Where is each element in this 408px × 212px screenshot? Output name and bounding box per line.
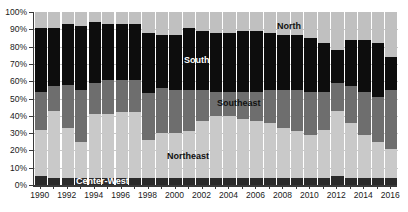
bar-segment-south [89, 22, 101, 83]
bar-column[interactable] [331, 12, 343, 185]
x-tick-mark [215, 185, 216, 189]
bar-segment-north [385, 12, 397, 57]
y-tick-label: 20% [10, 146, 27, 154]
bar-segment-northeast [237, 119, 249, 178]
bar-segment-north [264, 12, 276, 33]
stacked-bar-chart: 0%10%20%30%40%50%60%70%80%90%100% North … [0, 0, 408, 212]
x-tick-mark [255, 185, 256, 189]
bar-segment-south [62, 24, 74, 85]
bar-column[interactable] [277, 12, 289, 185]
bar-segment-northeast [318, 130, 330, 178]
bar-segment-north [237, 12, 249, 31]
bar-segment-southeast [48, 86, 60, 110]
x-tick-mark [40, 185, 41, 189]
bar-segment-center-west [183, 178, 195, 185]
bar-segment-south [385, 57, 397, 90]
bar-segment-center-west [277, 178, 289, 185]
bar-segment-northeast [196, 121, 208, 178]
bar-segment-south [116, 24, 128, 79]
bar-segment-southeast [304, 92, 316, 135]
bar-segment-south [264, 33, 276, 90]
bar-segment-south [48, 28, 60, 87]
bar-column[interactable] [75, 12, 87, 185]
bar-segment-south [277, 35, 289, 90]
bar-segment-southeast [142, 93, 154, 140]
bar-segment-center-west [48, 178, 60, 185]
bar-segment-center-west [250, 178, 262, 185]
y-tick-label: 40% [10, 112, 27, 120]
bar-segment-northeast [372, 142, 384, 178]
bar-segment-northeast [102, 114, 114, 178]
y-tick-label: 70% [10, 60, 27, 68]
bar-column[interactable] [358, 12, 370, 185]
bar-segment-northeast [142, 140, 154, 178]
bar-column[interactable] [318, 12, 330, 185]
bar-segment-north [304, 12, 316, 38]
bar-segment-southeast [196, 90, 208, 121]
bar-column[interactable] [142, 12, 154, 185]
bar-segment-center-west [223, 178, 235, 185]
bar-segment-center-west [291, 178, 303, 185]
bar-segment-center-west [156, 178, 168, 185]
x-tick-mark [377, 185, 378, 189]
plot-area: North South Southeast Northeast Center-W… [33, 12, 398, 185]
bar-column[interactable] [264, 12, 276, 185]
bar-segment-north [75, 12, 87, 26]
bar-column[interactable] [89, 12, 101, 185]
x-tick-mark [228, 185, 229, 189]
bar-segment-center-west [358, 178, 370, 185]
x-tick-label: 2010 [300, 191, 319, 200]
x-tick-label: 1998 [138, 191, 157, 200]
bar-column[interactable] [291, 12, 303, 185]
bar-segment-northeast [210, 116, 222, 178]
bar-segment-northeast [89, 114, 101, 178]
x-tick-label: 2002 [192, 191, 211, 200]
bar-segment-south [75, 26, 87, 90]
bar-column[interactable] [345, 12, 357, 185]
bar-segment-center-west [142, 178, 154, 185]
bar-column[interactable] [48, 12, 60, 185]
bar-segment-center-west [304, 178, 316, 185]
bar-column[interactable] [372, 12, 384, 185]
x-tick-mark [390, 185, 391, 189]
bar-segment-north [129, 12, 141, 24]
bar-segment-north [89, 12, 101, 22]
bar-column[interactable] [116, 12, 128, 185]
bar-column[interactable] [102, 12, 114, 185]
bar-segment-south [291, 35, 303, 90]
bar-segment-south [345, 40, 357, 87]
x-tick-mark [323, 185, 324, 189]
bar-segment-north [35, 12, 47, 28]
x-tick-mark [175, 185, 176, 189]
y-tick-label: 0% [15, 181, 27, 189]
bar-column[interactable] [304, 12, 316, 185]
x-tick-mark [202, 185, 203, 189]
bar-segment-south [331, 50, 343, 83]
bar-column[interactable] [385, 12, 397, 185]
x-tick-mark [350, 185, 351, 189]
bar-segment-southeast [358, 92, 370, 135]
bar-segment-southeast [62, 85, 74, 128]
bar-segment-southeast [89, 83, 101, 114]
bar-segment-southeast [277, 90, 289, 128]
bar-column[interactable] [62, 12, 74, 185]
bar-segment-northeast [129, 112, 141, 178]
bar-segment-southeast [372, 97, 384, 142]
x-tick-mark [107, 185, 108, 189]
bar-segment-southeast [264, 90, 276, 123]
bar-segment-center-west [196, 178, 208, 185]
bar-segment-north [102, 12, 114, 24]
bar-segment-northeast [291, 131, 303, 178]
bar-segment-southeast [183, 90, 195, 132]
y-axis: 0%10%20%30%40%50%60%70%80%90%100% [0, 0, 33, 212]
x-tick-label: 1994 [84, 191, 103, 200]
bar-column[interactable] [129, 12, 141, 185]
bar-segment-center-west [318, 178, 330, 185]
series-label-south: South [184, 56, 210, 65]
y-tick-label: 100% [5, 8, 27, 16]
bar-column[interactable] [35, 12, 47, 185]
series-label-northeast: Northeast [167, 152, 209, 161]
bar-segment-southeast [156, 88, 168, 133]
x-tick-label: 2008 [273, 191, 292, 200]
bar-segment-northeast [48, 111, 60, 178]
